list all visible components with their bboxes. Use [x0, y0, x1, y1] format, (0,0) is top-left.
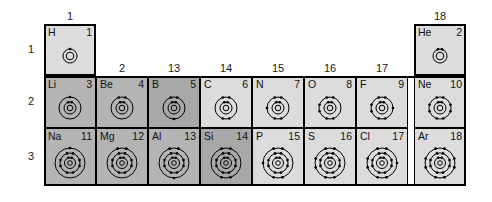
bohr-model-icon — [97, 141, 147, 184]
element-cell-h[interactable]: H1 — [44, 24, 96, 76]
element-cell-o[interactable]: O8 — [304, 76, 356, 128]
group-label-18: 18 — [414, 10, 466, 22]
bohr-model-icon — [357, 89, 407, 126]
element-cell-ne[interactable]: Ne10 — [414, 76, 466, 128]
element-cell-f[interactable]: F9 — [356, 76, 408, 128]
element-cell-mg[interactable]: Mg12 — [96, 128, 148, 186]
group-label-14: 14 — [200, 62, 252, 74]
element-cell-ar[interactable]: Ar18 — [414, 128, 466, 186]
bohr-model-icon — [415, 37, 465, 74]
element-cell-s[interactable]: S16 — [304, 128, 356, 186]
bohr-model-icon — [45, 37, 95, 74]
period-label-1: 1 — [24, 43, 38, 55]
bohr-model-icon — [305, 89, 355, 126]
bohr-model-icon — [415, 89, 465, 126]
bohr-model-icon — [149, 141, 199, 184]
bohr-model-icon — [201, 141, 251, 184]
element-cell-n[interactable]: N7 — [252, 76, 304, 128]
bohr-model-icon — [415, 141, 465, 184]
element-cell-al[interactable]: Al13 — [148, 128, 200, 186]
bohr-model-icon — [253, 89, 303, 126]
group-label-1: 1 — [44, 10, 96, 22]
element-cell-b[interactable]: B5 — [148, 76, 200, 128]
element-cell-be[interactable]: Be4 — [96, 76, 148, 128]
period-label-3: 3 — [24, 150, 38, 162]
group-label-15: 15 — [252, 62, 304, 74]
period-label-2: 2 — [24, 95, 38, 107]
group-label-13: 13 — [148, 62, 200, 74]
element-cell-c[interactable]: C6 — [200, 76, 252, 128]
element-cell-li[interactable]: Li3 — [44, 76, 96, 128]
bohr-model-icon — [45, 89, 95, 126]
element-cell-na[interactable]: Na11 — [44, 128, 96, 186]
periodic-table-figure: 12131415161718123H1He2Li3Be4B5C6N7O8F9Ne… — [0, 0, 492, 202]
group-label-16: 16 — [304, 62, 356, 74]
bohr-model-icon — [97, 89, 147, 126]
group-label-17: 17 — [356, 62, 408, 74]
bohr-model-icon — [149, 89, 199, 126]
bohr-model-icon — [357, 141, 407, 184]
element-cell-si[interactable]: Si14 — [200, 128, 252, 186]
group-label-2: 2 — [96, 62, 148, 74]
element-cell-cl[interactable]: Cl17 — [356, 128, 408, 186]
bohr-model-icon — [45, 141, 95, 184]
element-cell-p[interactable]: P15 — [252, 128, 304, 186]
bohr-model-icon — [201, 89, 251, 126]
bohr-model-icon — [305, 141, 355, 184]
bohr-model-icon — [253, 141, 303, 184]
element-cell-he[interactable]: He2 — [414, 24, 466, 76]
